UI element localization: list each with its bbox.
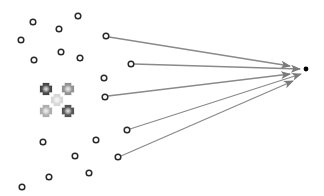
cluster-marker-bottom-right [62,105,74,117]
node [19,184,25,190]
node [46,174,52,180]
node [18,37,24,43]
node [75,13,81,19]
cluster-marker-top-right [62,83,74,95]
arrow-1 [109,37,290,66]
center-cluster [40,83,74,117]
node [93,137,99,143]
flow-diagram [0,0,324,196]
arrow-2 [134,64,300,69]
arrow-5 [121,81,293,156]
cluster-marker-bottom-left [40,105,52,117]
node [31,57,37,63]
node [86,170,92,176]
nodes-group [18,13,134,190]
node [56,26,62,32]
source-node [103,33,109,39]
node [101,75,107,81]
source-node [102,94,108,100]
target-group [304,67,309,72]
node [30,19,36,25]
cluster-marker-center [51,94,63,106]
node [72,153,78,159]
node [40,139,46,145]
target-node [304,67,309,72]
source-node [128,61,134,67]
arrow-4 [130,74,301,129]
node [58,49,64,55]
source-node [115,154,121,160]
cluster-marker-top-left [40,83,52,95]
arrows-group [108,37,301,156]
arrow-3 [108,74,290,96]
source-node [124,127,130,133]
diagram-canvas [0,0,324,196]
node [77,55,83,61]
